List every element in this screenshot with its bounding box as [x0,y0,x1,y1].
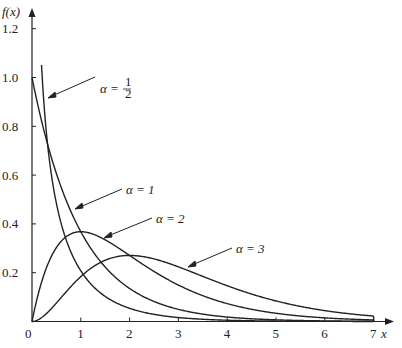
curves [32,65,374,322]
label-alpha-1: α = 1 [126,182,155,197]
x-tick-label: 7 [370,326,377,341]
arrow-alpha-half [52,77,95,96]
arrow-alpha-1 [80,189,122,207]
x-axis-arrow-icon [385,318,394,325]
arrowhead-icon [48,92,56,98]
x-tick-label: 0 [25,326,32,341]
y-ticks: 0.20.40.60.81.01.2 [2,21,36,280]
y-tick-label: 0.6 [2,168,19,183]
label-alpha-half: α = [100,81,119,96]
curve-alpha-1 [32,78,374,322]
y-axis-arrow-icon [29,8,36,17]
y-tick-label: 1.2 [2,21,18,36]
y-axis-label: f(x) [2,4,20,19]
x-tick-label: 1 [77,326,84,341]
axes [32,14,388,322]
y-tick-label: 0.2 [2,265,18,280]
label-alpha-2: α = 2 [156,211,185,226]
label-alpha-half-den: 2 [125,86,132,101]
x-tick-label: 4 [224,326,231,341]
x-tick-label: 5 [273,326,280,341]
arrowhead-icon [75,203,83,209]
y-tick-label: 1.0 [2,70,18,85]
x-tick-label: 3 [175,326,182,341]
y-tick-label: 0.8 [2,119,18,134]
arrowhead-icon [104,232,112,238]
curve-alpha-0-5 [42,65,374,321]
label-alpha-3: α = 3 [236,241,265,256]
x-axis-label: x [380,326,387,341]
x-tick-label: 2 [126,326,133,341]
annotations [48,77,232,267]
arrow-alpha-3 [192,248,232,265]
arrowhead-icon [188,261,196,267]
x-tick-label: 6 [321,326,328,341]
arrow-alpha-2 [108,218,152,236]
curve-alpha-3 [32,255,374,321]
y-tick-label: 0.4 [2,216,19,231]
gamma-density-chart: 0.20.40.60.81.01.2 01234567 f(x) x α = 1… [0,0,402,348]
